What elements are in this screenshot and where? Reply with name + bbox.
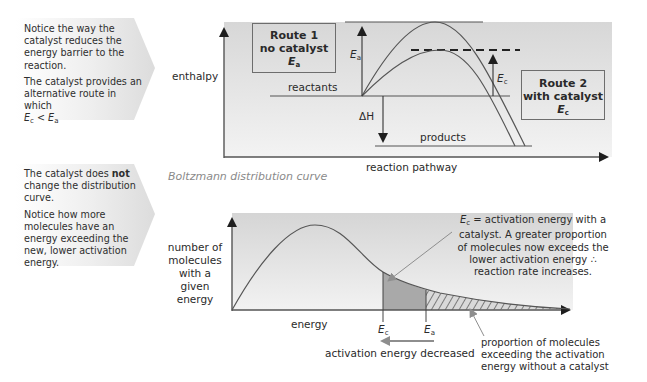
products-label: products [420,131,466,143]
note-distribution-p1: The catalyst does not change the distrib… [24,168,142,205]
decrease-label: activation energy decreased [325,347,475,359]
enthalpy-y-label: enthalpy [172,70,218,82]
boltzmann-x-label: energy [291,318,328,330]
tail-annotation-pointer [470,309,484,336]
boltzmann-title: Boltzmann distribution curve [168,170,327,183]
enthalpy-x-label: reaction pathway [366,161,457,173]
ec-label: Ec [497,72,508,86]
route1-box: Route 1 no catalyst Ea [252,23,336,73]
ec-annotation: Ec = activation energy with a catalyst. … [455,214,611,278]
delta-h-label: ΔH [359,110,374,122]
reactants-label: reactants [288,81,338,93]
note-distribution-p2: Notice how more molecules have an energy… [24,209,142,270]
tail-annotation: proportion of molecules exceeding the ac… [481,337,609,373]
note-enthalpy: Notice the way the catalyst reduces the … [24,23,142,132]
route2-box: Route 2 with catalyst Ec [521,70,605,120]
note-enthalpy-p1: Notice the way the catalyst reduces the … [24,23,142,72]
ec-marker-label: Ec [378,323,389,337]
ea-label: Ea [350,48,361,62]
note-distribution: The catalyst does not change the distrib… [24,168,142,274]
boltzmann-y-label: number of molecules with a given energy [163,241,227,306]
ea-marker-label: Ea [424,323,435,337]
note-enthalpy-p2: The catalyst provides an alternative rou… [24,76,142,128]
